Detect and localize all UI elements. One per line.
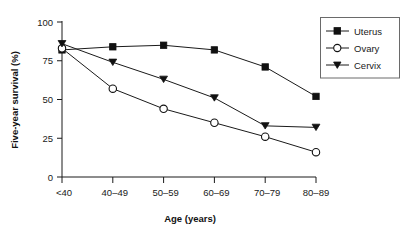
x-tick-label-0: <40 xyxy=(56,187,72,198)
data-point-uterus-50–59 xyxy=(160,42,166,48)
line-chart-canvas: 100 75 50 25 0 <40 40–49 50–59 60–69 70–… xyxy=(0,0,405,245)
y-tick-label-0: 0 xyxy=(48,172,53,183)
series-ovary xyxy=(58,45,319,156)
data-point-cervix-60–69 xyxy=(211,95,219,101)
y-tick-label-25: 25 xyxy=(42,133,53,144)
x-axis-ticks xyxy=(62,177,316,183)
legend-marker-ovary-open-circle-icon xyxy=(334,44,341,51)
data-point-ovary-60–69 xyxy=(211,119,218,126)
data-point-uterus-80–89 xyxy=(313,93,319,99)
legend-label-cervix: Cervix xyxy=(354,60,381,71)
x-tick-label-1: 40–49 xyxy=(102,187,128,198)
series-uterus xyxy=(59,42,319,100)
chart-figure: 100 75 50 25 0 <40 40–49 50–59 60–69 70–… xyxy=(0,0,405,245)
data-point-uterus-40–49 xyxy=(110,44,116,50)
y-tick-label-100: 100 xyxy=(37,17,53,28)
x-tick-label-3: 60–69 xyxy=(203,187,229,198)
data-point-ovary-40–49 xyxy=(109,85,116,92)
data-point-ovary-80–89 xyxy=(312,149,319,156)
y-tick-label-50: 50 xyxy=(42,94,53,105)
series-line-cervix xyxy=(62,44,316,128)
legend-label-uterus: Uterus xyxy=(354,26,382,37)
data-point-cervix-50–59 xyxy=(160,76,168,82)
chart-legend: Uterus Ovary Cervix xyxy=(321,18,400,79)
legend-marker-uterus-filled-square-icon xyxy=(334,28,341,35)
x-tick-label-5: 80–89 xyxy=(303,187,329,198)
y-tick-label-75: 75 xyxy=(42,55,53,66)
x-axis-title: Age (years) xyxy=(164,213,216,224)
data-point-cervix-40–49 xyxy=(109,59,117,65)
data-point-uterus-60–69 xyxy=(211,47,217,53)
series-cervix xyxy=(58,41,320,131)
y-axis-title: Five-year survival (%) xyxy=(9,51,20,149)
x-tick-label-4: 70–79 xyxy=(254,187,280,198)
x-tick-label-2: 50–59 xyxy=(152,187,178,198)
legend-label-ovary: Ovary xyxy=(354,43,380,54)
data-point-ovary-70–79 xyxy=(262,133,269,140)
series-layer xyxy=(58,41,320,156)
series-line-ovary xyxy=(62,48,316,152)
data-point-uterus-70–79 xyxy=(262,64,268,70)
data-point-ovary-50–59 xyxy=(160,105,167,112)
